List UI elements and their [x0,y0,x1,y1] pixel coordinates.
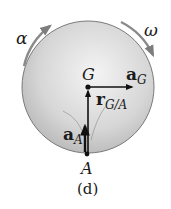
r-GA-subscript: G/A [105,98,128,112]
point-A-label: A [79,159,93,178]
point-G-label: G [82,65,95,84]
a-G-symbol: a [126,64,137,84]
omega-label: ω [144,20,158,40]
point-G [85,84,90,89]
alpha-label: α [16,28,28,48]
a-A-subscript: A [73,133,83,147]
figure-caption: (d) [77,180,98,198]
a-A-symbol: a [63,124,74,144]
a-G-subscript: G [137,73,147,87]
point-A [85,152,90,157]
rolling-disk-kinematics-diagram: α ω G A aG rG/A aA (d) [0,0,171,209]
